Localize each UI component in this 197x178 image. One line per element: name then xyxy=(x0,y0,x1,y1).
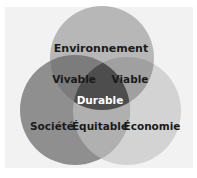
label-economie: Économie xyxy=(124,120,181,132)
venn-diagram: Environnement Vivable Viable Durable Soc… xyxy=(0,0,197,178)
label-vivable: Vivable xyxy=(52,73,96,85)
label-equitable: Équitable xyxy=(72,120,128,132)
label-societe: Société xyxy=(30,120,74,132)
label-durable: Durable xyxy=(77,94,124,106)
label-environnement: Environnement xyxy=(54,42,148,55)
venn-diagram-figure: Environnement Vivable Viable Durable Soc… xyxy=(0,0,197,178)
label-viable: Viable xyxy=(112,73,149,85)
